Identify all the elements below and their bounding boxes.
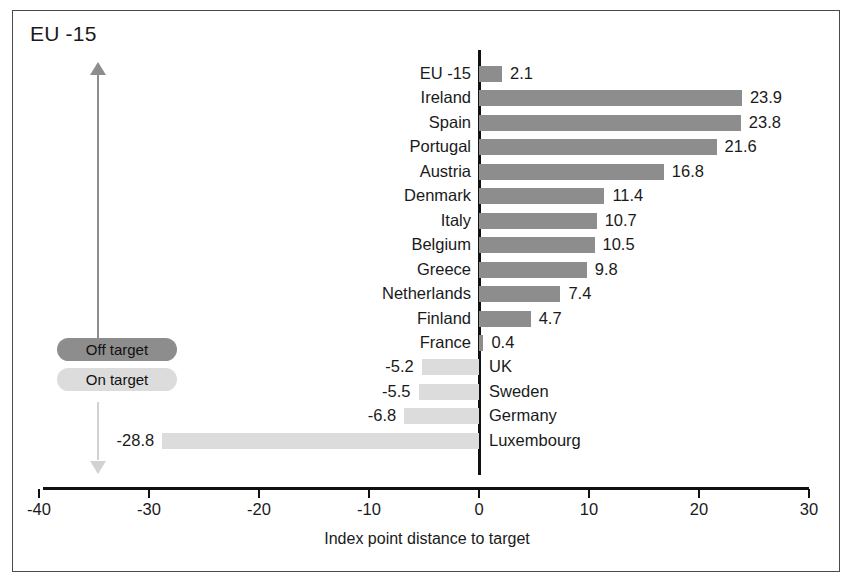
x-tick — [698, 489, 700, 498]
x-tick-label: 20 — [690, 500, 708, 519]
x-axis-line — [43, 487, 809, 490]
bar-row: Spain23.8 — [0, 111, 854, 135]
x-tick-label: 10 — [580, 500, 598, 519]
bar-austria — [479, 164, 664, 180]
x-tick — [38, 489, 40, 498]
bar-row: France0.4 — [0, 331, 854, 355]
bar-row: -5.2UK — [0, 355, 854, 379]
bar-row: Austria16.8 — [0, 160, 854, 184]
value-label: -28.8 — [0, 431, 154, 450]
x-tick-label: -10 — [357, 500, 381, 519]
category-label: Austria — [0, 162, 471, 181]
bar-finland — [479, 311, 531, 327]
x-tick — [258, 489, 260, 498]
category-label: Luxembourg — [489, 431, 581, 450]
bar-netherlands — [479, 286, 560, 302]
bar-france — [479, 335, 483, 351]
x-axis-title: Index point distance to target — [0, 530, 854, 548]
value-label: 21.6 — [725, 137, 757, 156]
category-label: Netherlands — [0, 284, 471, 303]
x-tick-label: -40 — [27, 500, 51, 519]
value-label: 16.8 — [672, 162, 704, 181]
plot-area: EU -152.1Ireland23.9Spain23.8Portugal21.… — [0, 0, 854, 586]
chart-figure: EU -15 Off target On target EU -152.1Ire… — [0, 0, 854, 586]
category-label: Ireland — [0, 88, 471, 107]
value-label: 10.5 — [603, 235, 635, 254]
bar-greece — [479, 262, 587, 278]
bar-row: Denmark11.4 — [0, 184, 854, 208]
value-label: -5.5 — [0, 382, 411, 401]
x-tick — [478, 489, 480, 498]
bar-row: -6.8Germany — [0, 404, 854, 428]
value-label: 23.9 — [750, 88, 782, 107]
value-label: 2.1 — [510, 64, 533, 83]
bar-row: Portugal21.6 — [0, 135, 854, 159]
bar-eu-15 — [479, 66, 502, 82]
category-label: Germany — [489, 406, 557, 425]
bar-row: Finland4.7 — [0, 307, 854, 331]
x-tick-label: 0 — [474, 500, 483, 519]
bar-portugal — [479, 139, 717, 155]
category-label: Portugal — [0, 137, 471, 156]
value-label: 7.4 — [568, 284, 591, 303]
x-tick-label: 30 — [800, 500, 818, 519]
bar-denmark — [479, 188, 604, 204]
bar-luxembourg — [162, 433, 479, 449]
value-label: -5.2 — [0, 357, 414, 376]
category-label: Denmark — [0, 186, 471, 205]
category-label: Belgium — [0, 235, 471, 254]
x-tick — [368, 489, 370, 498]
category-label: France — [0, 333, 471, 352]
bar-ireland — [479, 90, 742, 106]
bar-row: Ireland23.9 — [0, 86, 854, 110]
category-label: Finland — [0, 309, 471, 328]
bar-row: Belgium10.5 — [0, 233, 854, 257]
value-label: 9.8 — [595, 260, 618, 279]
value-label: 10.7 — [605, 211, 637, 230]
bar-sweden — [419, 384, 480, 400]
bar-row: Netherlands7.4 — [0, 282, 854, 306]
value-label: 4.7 — [539, 309, 562, 328]
value-label: -6.8 — [0, 406, 396, 425]
category-label: Sweden — [489, 382, 549, 401]
x-tick — [588, 489, 590, 498]
x-tick-label: -20 — [247, 500, 271, 519]
category-label: Greece — [0, 260, 471, 279]
bar-italy — [479, 213, 597, 229]
category-label: Spain — [0, 113, 471, 132]
x-tick — [808, 489, 810, 498]
x-tick — [148, 489, 150, 498]
value-label: 0.4 — [491, 333, 514, 352]
value-label: 23.8 — [749, 113, 781, 132]
category-label: EU -15 — [0, 64, 471, 83]
bar-spain — [479, 115, 741, 131]
x-tick-label: -30 — [137, 500, 161, 519]
bar-germany — [404, 408, 479, 424]
bar-uk — [422, 359, 479, 375]
category-label: Italy — [0, 211, 471, 230]
bar-row: -5.5Sweden — [0, 380, 854, 404]
bar-belgium — [479, 237, 595, 253]
bar-row: Greece9.8 — [0, 258, 854, 282]
category-label: UK — [489, 357, 512, 376]
value-label: 11.4 — [612, 186, 643, 205]
bar-row: -28.8Luxembourg — [0, 429, 854, 453]
bar-row: EU -152.1 — [0, 62, 854, 86]
bar-row: Italy10.7 — [0, 209, 854, 233]
